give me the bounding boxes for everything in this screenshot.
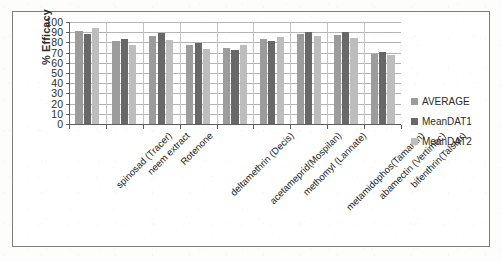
y-axis-tick-label: 0 (57, 119, 63, 129)
bar (129, 45, 136, 124)
bar (223, 48, 230, 125)
bar (260, 39, 267, 124)
legend-item-label: AVERAGE (422, 96, 470, 107)
y-axis-tick (66, 63, 70, 64)
y-axis-tick-label: 30 (51, 88, 63, 98)
y-axis-tick-label: 50 (51, 68, 63, 78)
bar (166, 40, 173, 124)
y-axis-tick (66, 42, 70, 43)
x-axis-tick (69, 125, 70, 129)
x-axis-tick (106, 125, 107, 129)
x-axis-tick (217, 125, 218, 129)
bar (371, 54, 378, 124)
bars-layer (69, 22, 401, 124)
bar (112, 41, 119, 124)
bar (75, 31, 82, 124)
y-axis-tick-label: 90 (51, 27, 63, 37)
bar-group (364, 22, 401, 124)
bar (268, 41, 275, 124)
bar (121, 39, 128, 124)
chart-legend: AVERAGEMeanDAT1MeanDAT2 (411, 96, 487, 156)
bar-group (217, 22, 254, 124)
bar (379, 52, 386, 124)
bar (297, 34, 304, 124)
y-axis-tick-label: 100 (45, 17, 63, 27)
bar (342, 32, 349, 124)
legend-swatch-icon (411, 98, 418, 105)
legend-item[interactable]: MeanDAT2 (411, 136, 487, 147)
bar-group (69, 22, 106, 124)
bar-group (290, 22, 327, 124)
legend-item-label: MeanDAT2 (422, 136, 472, 147)
bar (231, 50, 238, 124)
bar-group (180, 22, 217, 124)
y-axis-tick (66, 83, 70, 84)
y-axis-tick-label: 10 (51, 109, 63, 119)
y-axis-tick-label: 70 (51, 48, 63, 58)
bar (203, 49, 210, 124)
bar (277, 37, 284, 124)
legend-swatch-icon (411, 138, 418, 145)
x-axis-tick (180, 125, 181, 129)
legend-swatch-icon (411, 118, 418, 125)
bar (186, 45, 193, 124)
y-axis-tick-label: 40 (51, 78, 63, 88)
bar (149, 36, 156, 124)
chart-frame: % Efficacy 0102030405060708090100 spinos… (12, 11, 490, 247)
legend-item[interactable]: MeanDAT1 (411, 116, 487, 127)
bar (350, 38, 357, 124)
y-axis-tick-label: 20 (51, 99, 63, 109)
x-axis-line (69, 124, 401, 125)
bar (158, 33, 165, 124)
bar-group (327, 22, 364, 124)
y-axis-tick (66, 114, 70, 115)
bar (314, 36, 321, 124)
bar-group (143, 22, 180, 124)
y-axis-tick (66, 32, 70, 33)
bar (387, 55, 394, 124)
y-axis-tick (66, 104, 70, 105)
x-axis-tick (364, 125, 365, 129)
bar (195, 43, 202, 124)
y-axis-tick (66, 53, 70, 54)
y-axis-tick (66, 93, 70, 94)
plot-area (69, 22, 401, 124)
y-axis-tick-label: 60 (51, 58, 63, 68)
bar-group (106, 22, 143, 124)
bar (240, 45, 247, 124)
y-axis-tick (66, 73, 70, 74)
bar (92, 28, 99, 124)
bar (334, 35, 341, 124)
y-axis-tick-labels: 0102030405060708090100 (35, 22, 65, 124)
legend-item[interactable]: AVERAGE (411, 96, 487, 107)
x-axis-tick (143, 125, 144, 129)
y-axis-tick (66, 22, 70, 23)
bar (84, 34, 91, 124)
legend-item-label: MeanDAT1 (422, 116, 472, 127)
x-axis-tick (290, 125, 291, 129)
x-axis-tick (401, 125, 402, 129)
x-axis-tick (253, 125, 254, 129)
bar-group (253, 22, 290, 124)
y-axis-tick-label: 80 (51, 37, 63, 47)
bar (305, 32, 312, 124)
chart-screenshot: % Efficacy 0102030405060708090100 spinos… (0, 0, 502, 262)
x-axis-tick (327, 125, 328, 129)
